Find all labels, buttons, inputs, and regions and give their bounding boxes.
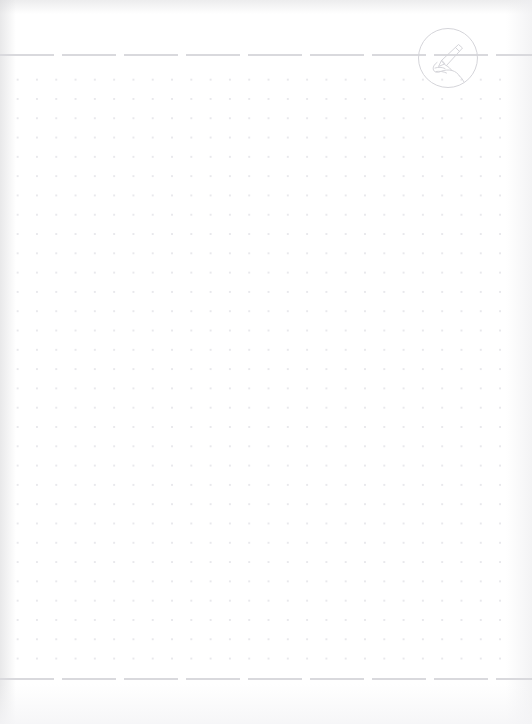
footer-dashed-rule [0,678,532,680]
hand-wrist [460,76,465,82]
dot-grid [2,64,518,668]
scan-shadow-top [0,0,532,14]
logo-circle-outline [419,29,478,88]
writing-hand-logo [417,27,479,89]
notebook-page [0,0,532,724]
pen-band [456,48,460,52]
pen-barrel [442,45,463,66]
scan-shadow-bottom [0,684,532,724]
pen-tip [439,61,445,67]
hand-index-finger [441,70,460,76]
hand-middle-finger [435,67,445,68]
